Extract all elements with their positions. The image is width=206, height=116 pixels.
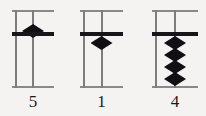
earth-bead: [164, 72, 186, 86]
earth-bead: [91, 36, 113, 50]
rod-right: [32, 10, 34, 88]
abacus-figure: 5 1 4: [0, 0, 206, 116]
earth-bead: [164, 36, 186, 50]
column-value-label: 1: [80, 92, 123, 112]
reckoning-bar: [80, 32, 123, 36]
abacus-column-2: 1: [80, 0, 123, 116]
earth-bead: [164, 48, 186, 62]
abacus-frame: [80, 10, 123, 88]
abacus-column-1: 5: [12, 0, 54, 116]
earth-bead: [164, 60, 186, 74]
rod-left: [155, 10, 157, 88]
column-value-label: 4: [152, 92, 198, 112]
column-value-label: 5: [12, 92, 54, 112]
abacus-column-3: 4: [152, 0, 198, 116]
abacus-frame: [152, 10, 198, 88]
reckoning-bar: [152, 32, 198, 36]
rod-left: [15, 10, 17, 88]
reckoning-bar: [12, 32, 54, 36]
abacus-frame: [12, 10, 54, 88]
rod-left: [83, 10, 85, 88]
